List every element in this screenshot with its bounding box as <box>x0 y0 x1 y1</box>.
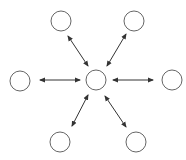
node-circle-right <box>162 70 182 90</box>
bidirectional-arrow-top-right-to-center <box>107 34 126 66</box>
star-network-diagram <box>0 0 186 160</box>
node-circle-center <box>86 70 106 90</box>
node-circle-top-right <box>124 11 144 31</box>
bidirectional-arrow-bottom-right-to-center <box>105 96 126 127</box>
node-circle-top-left <box>51 11 71 31</box>
node-circle-bottom-right <box>126 132 146 152</box>
node-circle-bottom-left <box>50 132 70 152</box>
nodes-group <box>10 11 182 152</box>
bidirectional-arrow-top-left-to-center <box>68 36 88 66</box>
node-circle-left <box>10 71 30 91</box>
bidirectional-arrow-bottom-left-to-center <box>72 95 88 126</box>
